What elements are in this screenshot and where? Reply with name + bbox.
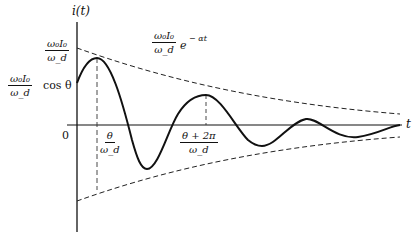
t-axis-label: t [406,118,411,130]
damped-response-curve [77,58,400,169]
upper-envelope [77,48,400,114]
lower-envelope [77,137,400,201]
origin-label: 0 [62,130,69,141]
envelope-label: ω₀I₀ ω_d [152,30,176,55]
envelope-exponent: − αt [189,35,207,43]
peak-amplitude-label: ω₀I₀ ω_d [45,38,69,63]
y-axis-label: i(t) [72,5,90,17]
damped-oscillation-diagram: i(t) t 0 ω₀I₀ ω_d ω₀I₀ ω_d cos θ ω₀I₀ ω_… [0,0,419,239]
first-peak-time-label: θ ω_d [100,130,120,155]
plot-canvas [0,0,419,239]
second-peak-time-label: θ + 2π ω_d [180,130,218,155]
envelope-exp-base: e [180,40,187,51]
initial-value-cos: cos θ [43,80,72,91]
initial-value-label: ω₀I₀ ω_d [8,73,32,98]
